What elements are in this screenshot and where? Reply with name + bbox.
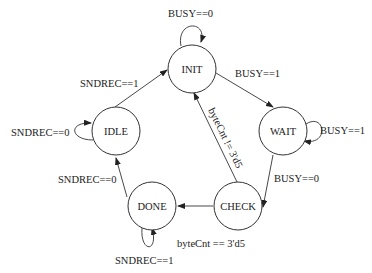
label-done-idle: SNDREC==0: [58, 174, 117, 185]
transition-idle-init: SNDREC==1: [80, 70, 167, 107]
label-done-self: SNDREC==1: [115, 255, 174, 266]
state-check: CHECK: [214, 182, 262, 230]
transition-wait-check: BUSY==0: [263, 155, 319, 207]
state-label: WAIT: [270, 126, 297, 137]
transition-init-wait: BUSY==1: [216, 68, 280, 107]
transition-check-init: byteCnt != 3'd5: [194, 93, 245, 182]
state-idle: IDLE: [92, 107, 140, 155]
state-label: IDLE: [104, 126, 128, 137]
transition-init-self: BUSY==0: [168, 8, 213, 46]
state-label: DONE: [137, 201, 166, 212]
state-diagram: BUSY==0 BUSY==1 BUSY==1 BUSY==0 byteCnt …: [0, 0, 372, 273]
state-wait: WAIT: [259, 107, 307, 155]
transition-done-self: SNDREC==1: [115, 228, 174, 266]
state-init: INIT: [168, 45, 216, 93]
transition-done-idle: SNDREC==0: [58, 158, 127, 197]
state-label: INIT: [182, 64, 204, 75]
state-label: CHECK: [220, 201, 256, 212]
transition-wait-self: BUSY==1: [304, 121, 365, 141]
label-init-self: BUSY==0: [168, 8, 213, 19]
label-init-wait: BUSY==1: [235, 68, 280, 79]
transition-idle-self: SNDREC==0: [11, 123, 93, 140]
state-done: DONE: [128, 182, 176, 230]
label-idle-init: SNDREC==1: [80, 78, 139, 89]
label-wait-self: BUSY==1: [320, 125, 365, 136]
label-wait-check: BUSY==0: [274, 173, 319, 184]
label-check-done: byteCnt == 3'd5: [177, 238, 245, 249]
label-idle-self: SNDREC==0: [11, 127, 70, 138]
label-check-init: byteCnt != 3'd5: [206, 106, 245, 170]
